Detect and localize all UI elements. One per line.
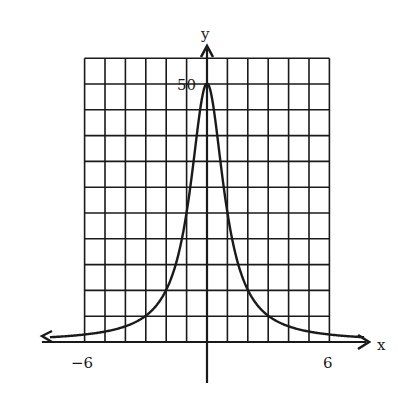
x-axis-label: x [377, 336, 386, 354]
x-tick-label-min: −6 [71, 354, 93, 372]
chart-figure: y x 50 −6 6 [0, 0, 415, 406]
chart-svg: y x 50 −6 6 [0, 0, 415, 406]
y-axis-label: y [200, 25, 210, 43]
y-tick-label-50: 50 [177, 76, 196, 94]
x-tick-label-max: 6 [323, 354, 333, 372]
